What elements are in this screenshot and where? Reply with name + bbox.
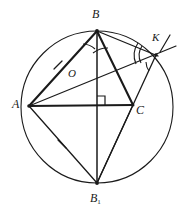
geometry-canvas xyxy=(0,0,190,213)
geometry-figure: B K O A C B1 xyxy=(0,0,190,213)
vertex-label-K: K xyxy=(152,32,159,43)
angle-arc-at-K-lower xyxy=(146,62,149,71)
vertex-point-C xyxy=(132,104,135,107)
vertex-label-B: B xyxy=(92,8,99,20)
vertex-point-A xyxy=(27,104,31,108)
segment-BK xyxy=(97,31,158,56)
vertex-label-A: A xyxy=(12,98,19,110)
vertex-label-O: O xyxy=(68,68,76,79)
vertex-point-B1 xyxy=(95,181,99,185)
vertex-label-B1-subscript: 1 xyxy=(97,198,101,206)
tick-mark-on-AB xyxy=(54,61,62,69)
segment-side-BC xyxy=(97,31,133,105)
vertex-label-C: C xyxy=(136,104,144,116)
vertex-label-B1: B1 xyxy=(90,192,101,204)
segment-side-AB xyxy=(29,31,97,106)
vertex-point-K xyxy=(154,53,157,56)
tick-mark-on-AB1 xyxy=(58,140,66,148)
right-angle-marker xyxy=(97,96,105,105)
vertex-point-B xyxy=(95,29,99,33)
segment-side-AC xyxy=(29,105,133,106)
line-A-through-O-to-K xyxy=(29,46,176,106)
